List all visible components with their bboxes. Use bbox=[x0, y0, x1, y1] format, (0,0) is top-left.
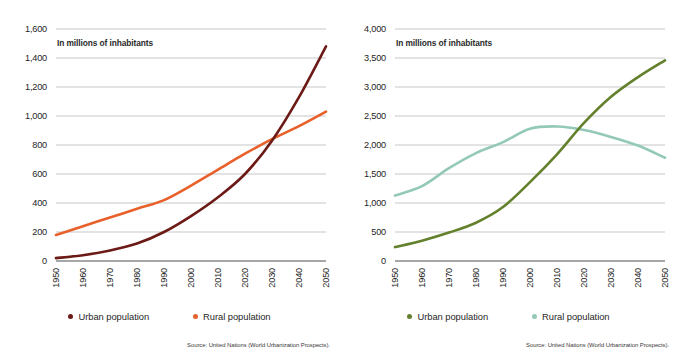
x-axis-tick-label: 2010 bbox=[552, 268, 562, 288]
legend-label-rural: Rural population bbox=[542, 311, 609, 322]
legend-item-urban-right[interactable]: Urban population bbox=[407, 311, 488, 322]
gridlines: 05001,0001,5002,0002,5003,0003,5004,000 bbox=[364, 24, 665, 266]
y-axis-tick-label: 3,000 bbox=[364, 82, 386, 92]
y-axis-tick-label: 400 bbox=[32, 198, 47, 208]
series-group bbox=[395, 60, 665, 247]
legend-item-urban-left[interactable]: Urban population bbox=[68, 311, 149, 322]
x-axis-tick-label: 1950 bbox=[51, 268, 61, 288]
legend-left: Urban population Rural population bbox=[0, 311, 339, 322]
x-axis-tick-label: 1980 bbox=[132, 268, 142, 288]
y-axis-tick-label: 1,600 bbox=[25, 24, 47, 34]
y-axis-tick-label: 200 bbox=[32, 227, 47, 237]
y-axis-tick-label: 500 bbox=[371, 227, 386, 237]
legend-label-urban: Urban population bbox=[78, 311, 149, 322]
legend-item-rural-right[interactable]: Rural population bbox=[532, 311, 609, 322]
x-axis-tick-label: 2020 bbox=[240, 268, 250, 288]
x-axis-tick-label: 2050 bbox=[321, 268, 331, 288]
x-axis-tick-labels: 1950196019701980199020002010202020302040… bbox=[51, 268, 331, 288]
x-axis-tick-label: 2000 bbox=[186, 268, 196, 288]
x-axis-tick-label: 2010 bbox=[213, 268, 223, 288]
y-axis-tick-label: 800 bbox=[32, 140, 47, 150]
y-axis-tick-label: 600 bbox=[32, 169, 47, 179]
series-line-rural bbox=[395, 126, 665, 195]
series-line-urban bbox=[56, 46, 326, 258]
line-chart-right: 05001,0001,5002,0002,5003,0003,5004,0001… bbox=[339, 0, 678, 358]
source-note-left: Source: United Nations (World Urbanizati… bbox=[187, 342, 330, 348]
legend-right: Urban population Rural population bbox=[339, 311, 678, 322]
legend-dot-rural-icon bbox=[532, 314, 537, 319]
x-axis-tick-label: 1980 bbox=[471, 268, 481, 288]
legend-dot-urban-icon bbox=[407, 314, 412, 319]
x-axis-tick-label: 2030 bbox=[606, 268, 616, 288]
x-axis-tick-label: 2030 bbox=[267, 268, 277, 288]
x-axis-tick-label: 1960 bbox=[78, 268, 88, 288]
series-group bbox=[56, 46, 326, 258]
legend-label-urban: Urban population bbox=[417, 311, 488, 322]
x-axis-tick-label: 2040 bbox=[633, 268, 643, 288]
y-axis-tick-label: 0 bbox=[42, 256, 47, 266]
x-axis-tick-label: 1990 bbox=[498, 268, 508, 288]
figure-root: 02004006008001,0001,2001,4001,6001950196… bbox=[0, 0, 678, 358]
y-axis-tick-label: 1,400 bbox=[25, 53, 47, 63]
line-chart-left: 02004006008001,0001,2001,4001,6001950196… bbox=[0, 0, 339, 358]
chart-panel-left: 02004006008001,0001,2001,4001,6001950196… bbox=[0, 0, 339, 358]
x-axis-tick-label: 2050 bbox=[660, 268, 670, 288]
x-axis-tick-label: 1970 bbox=[105, 268, 115, 288]
y-axis-tick-label: 1,200 bbox=[25, 82, 47, 92]
x-axis-tick-label: 2040 bbox=[294, 268, 304, 288]
y-axis-tick-label: 4,000 bbox=[364, 24, 386, 34]
source-note-right: Source: United Nations (World Urbanizati… bbox=[526, 342, 669, 348]
x-axis-tick-label: 1960 bbox=[417, 268, 427, 288]
y-axis-tick-label: 1,000 bbox=[25, 111, 47, 121]
x-axis-tick-label: 1970 bbox=[444, 268, 454, 288]
x-axis-tick-label: 2020 bbox=[579, 268, 589, 288]
y-axis-tick-label: 2,500 bbox=[364, 111, 386, 121]
x-axis-tick-label: 2000 bbox=[525, 268, 535, 288]
x-axis-tick-label: 1990 bbox=[159, 268, 169, 288]
axis-note-right: In millions of inhabitants bbox=[396, 38, 492, 48]
legend-item-rural-left[interactable]: Rural population bbox=[193, 311, 270, 322]
chart-panel-right: 05001,0001,5002,0002,5003,0003,5004,0001… bbox=[339, 0, 678, 358]
y-axis-tick-label: 1,500 bbox=[364, 169, 386, 179]
legend-label-rural: Rural population bbox=[203, 311, 270, 322]
axis-note-left: In millions of inhabitants bbox=[57, 38, 153, 48]
legend-dot-rural-icon bbox=[193, 314, 198, 319]
y-axis-tick-label: 3,500 bbox=[364, 53, 386, 63]
y-axis-tick-label: 0 bbox=[381, 256, 386, 266]
x-axis-tick-label: 1950 bbox=[390, 268, 400, 288]
x-axis-tick-labels: 1950196019701980199020002010202020302040… bbox=[390, 268, 670, 288]
y-axis-tick-label: 2,000 bbox=[364, 140, 386, 150]
legend-dot-urban-icon bbox=[68, 314, 73, 319]
series-line-urban bbox=[395, 60, 665, 247]
y-axis-tick-label: 1,000 bbox=[364, 198, 386, 208]
